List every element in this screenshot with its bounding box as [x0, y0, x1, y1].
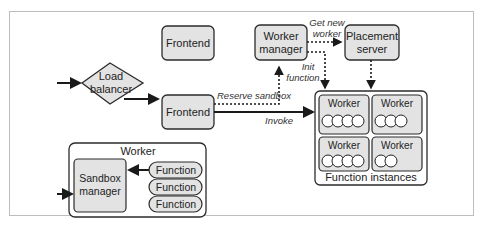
frontend-idle-node: Frontend: [162, 26, 214, 60]
function-instances-title: Function instances: [325, 171, 417, 183]
instance-worker-1-label: Worker: [328, 98, 361, 109]
placement-server-node: Placement server: [345, 25, 399, 60]
frontend-idle-label: Frontend: [166, 37, 210, 49]
instance-worker-2-label: Worker: [381, 98, 414, 109]
sandbox-manager-label-1: Sandbox: [79, 172, 121, 184]
architecture-diagram: Load balancer Frontend Frontend Reserve …: [0, 0, 484, 233]
placement-server-label-1: Placement: [346, 30, 398, 42]
get-new-worker-label-1: Get new: [309, 17, 346, 28]
instance-worker-3-label: Worker: [328, 140, 361, 151]
reserve-sandbox-label: Reserve sandbox: [217, 90, 292, 101]
worker-detail-group: Worker Sandbox manager Function Function…: [57, 143, 206, 217]
load-balancer-label-2: balancer: [90, 83, 133, 95]
get-new-worker-label-2: worker: [313, 28, 342, 39]
sandbox-manager-label-2: manager: [79, 185, 121, 197]
init-function-label-2: function: [286, 72, 319, 83]
function-instances-group: Worker Worker Worker Worker Function ins…: [315, 91, 427, 185]
instance-worker-3: Worker: [319, 137, 369, 171]
worker-manager-label-2: manager: [259, 43, 303, 55]
instance-worker-1: Worker: [319, 95, 369, 134]
worker-manager-label-1: Worker: [263, 30, 299, 42]
function-label-2: Function: [156, 181, 196, 193]
function-label-3: Function: [156, 198, 196, 210]
function-label-1: Function: [156, 164, 196, 176]
placement-server-label-2: server: [357, 43, 388, 55]
worker-manager-node: Worker manager: [255, 25, 307, 60]
instance-worker-4-label: Worker: [381, 140, 414, 151]
instance-worker-4: Worker: [372, 137, 422, 171]
worker-detail-title: Worker: [120, 145, 156, 157]
instance-worker-2: Worker: [372, 95, 422, 134]
load-balancer-label-1: Load: [99, 70, 123, 82]
load-balancer-node: Load balancer: [82, 63, 143, 104]
invoke-label: Invoke: [265, 115, 293, 126]
init-function-label-1: Init: [302, 61, 315, 72]
frontend-active-node: Frontend: [162, 95, 214, 129]
frontend-active-label: Frontend: [166, 106, 210, 118]
